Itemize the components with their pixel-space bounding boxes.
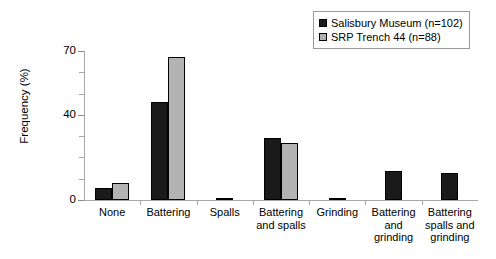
x-axis-label-6-line-0: Battering bbox=[416, 206, 484, 219]
bar-1-series-1 bbox=[168, 57, 185, 200]
y-tick-70 bbox=[78, 51, 84, 52]
bar-2-series-0 bbox=[216, 198, 233, 200]
bar-chart-figure: Salisbury Museum (n=102) SRP Trench 44 (… bbox=[0, 0, 496, 259]
bar-3-series-0 bbox=[264, 138, 281, 200]
x-axis-line bbox=[84, 200, 478, 201]
y-tick-label-0: 0 bbox=[70, 194, 76, 206]
legend-item-srp-trench-44: SRP Trench 44 (n=88) bbox=[319, 30, 463, 44]
bar-6-series-0 bbox=[441, 173, 458, 200]
legend-swatch-dark-icon bbox=[319, 19, 327, 27]
y-axis-line bbox=[84, 51, 85, 200]
legend-item-salisbury-museum: Salisbury Museum (n=102) bbox=[319, 16, 463, 30]
x-tick-5 bbox=[365, 200, 366, 205]
y-tick-0 bbox=[78, 200, 84, 201]
legend-label-srp-trench-44: SRP Trench 44 (n=88) bbox=[331, 31, 441, 43]
plot-area: 04070 bbox=[84, 51, 478, 200]
y-tick-60 bbox=[79, 72, 84, 73]
y-tick-50 bbox=[79, 94, 84, 95]
x-axis-label-6-line-1: spalls and bbox=[416, 219, 484, 232]
x-tick-4 bbox=[309, 200, 310, 205]
legend-swatch-light-icon bbox=[319, 33, 327, 41]
bar-3-series-1 bbox=[281, 143, 298, 200]
y-axis-title: Frequency (%) bbox=[18, 46, 30, 166]
y-tick-20 bbox=[79, 157, 84, 158]
y-tick-label-70: 70 bbox=[63, 45, 76, 57]
x-tick-6 bbox=[422, 200, 423, 205]
y-tick-30 bbox=[79, 136, 84, 137]
x-tick-2 bbox=[197, 200, 198, 205]
bar-0-series-1 bbox=[112, 183, 129, 200]
bar-1-series-0 bbox=[151, 102, 168, 200]
y-tick-10 bbox=[79, 179, 84, 180]
bar-5-series-0 bbox=[385, 171, 402, 200]
x-axis-label-3-line-1: and spalls bbox=[247, 219, 315, 232]
bar-0-series-0 bbox=[95, 188, 112, 200]
legend-label-salisbury-museum: Salisbury Museum (n=102) bbox=[331, 17, 463, 29]
chart-legend: Salisbury Museum (n=102) SRP Trench 44 (… bbox=[313, 11, 470, 49]
x-tick-1 bbox=[140, 200, 141, 205]
y-tick-40 bbox=[78, 115, 84, 116]
bar-4-series-0 bbox=[329, 198, 346, 200]
y-tick-label-40: 40 bbox=[63, 109, 76, 121]
x-axis-label-6-line-2: grinding bbox=[416, 231, 484, 244]
x-axis-label-6: Batteringspalls andgrinding bbox=[416, 206, 484, 244]
x-tick-3 bbox=[253, 200, 254, 205]
